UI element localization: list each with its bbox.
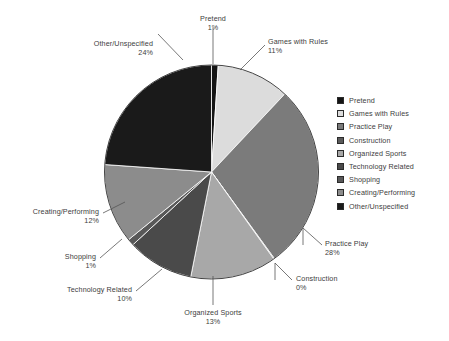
pie-chart: Pretend 1% Games with Rules 11% Other/Un…: [0, 0, 449, 341]
callout-technology-related-label: Technology Related: [48, 285, 132, 294]
callout-construction-label: Construction: [296, 274, 338, 283]
callout-practice-play-value: 28%: [325, 248, 368, 257]
leader-line-construction: [275, 263, 292, 280]
legend-swatch-icon: [337, 137, 344, 144]
callout-technology-related-value: 10%: [48, 294, 132, 303]
callout-other-unspecified-label: Other/Unspecified: [48, 39, 153, 48]
callout-pretend: Pretend 1%: [189, 14, 237, 32]
callout-games-with-rules-value: 11%: [268, 46, 328, 55]
leader-line-technology-related: [136, 269, 162, 291]
callout-organized-sports: Organized Sports 13%: [176, 308, 250, 326]
legend-item-label: Shopping: [349, 175, 380, 184]
legend-swatch-icon: [337, 97, 344, 104]
legend-item-label: Creating/Performing: [349, 188, 415, 197]
callout-construction: Construction 0%: [296, 274, 338, 292]
legend-swatch-icon: [337, 123, 344, 130]
callout-creating-performing-value: 12%: [10, 216, 99, 225]
chart-legend: PretendGames with RulesPractice PlayCons…: [337, 94, 449, 213]
callout-practice-play-label: Practice Play: [325, 239, 368, 248]
legend-swatch-icon: [337, 176, 344, 183]
legend-item-other-unspecified[interactable]: Other/Unspecified: [337, 200, 449, 213]
leader-line-practice-play: [303, 228, 322, 245]
legend-swatch-icon: [337, 189, 344, 196]
legend-item-games-with-rules[interactable]: Games with Rules: [337, 107, 449, 120]
leader-line-shopping: [100, 239, 122, 258]
legend-item-technology-related[interactable]: Technology Related: [337, 160, 449, 173]
pie-slice-other-unspecified[interactable]: [105, 65, 212, 172]
leader-line-other-unspecified: [158, 34, 183, 60]
callout-shopping-value: 1%: [48, 261, 96, 270]
legend-swatch-icon: [337, 203, 344, 210]
callout-construction-value: 0%: [296, 283, 338, 292]
legend-swatch-icon: [337, 150, 344, 157]
callout-organized-sports-value: 13%: [176, 317, 250, 326]
legend-item-construction[interactable]: Construction: [337, 134, 449, 147]
callout-creating-performing-label: Creating/Performing: [10, 207, 99, 216]
legend-item-label: Other/Unspecified: [349, 202, 408, 211]
callout-other-unspecified-value: 24%: [48, 48, 153, 57]
legend-item-practice-play[interactable]: Practice Play: [337, 120, 449, 133]
pie-slice-group: [104, 65, 318, 279]
legend-item-label: Games with Rules: [349, 109, 409, 118]
callout-games-with-rules-label: Games with Rules: [268, 37, 328, 46]
callout-organized-sports-label: Organized Sports: [176, 308, 250, 317]
legend-swatch-icon: [337, 110, 344, 117]
legend-item-shopping[interactable]: Shopping: [337, 173, 449, 186]
callout-technology-related: Technology Related 10%: [48, 285, 132, 303]
callout-practice-play: Practice Play 28%: [325, 239, 368, 257]
callout-shopping-label: Shopping: [48, 252, 96, 261]
legend-item-label: Pretend: [349, 96, 375, 105]
legend-item-pretend[interactable]: Pretend: [337, 94, 449, 107]
callout-creating-performing: Creating/Performing 12%: [10, 207, 99, 225]
callout-pretend-value: 1%: [189, 23, 237, 32]
legend-item-label: Technology Related: [349, 162, 414, 171]
legend-item-label: Practice Play: [349, 122, 392, 131]
callout-shopping: Shopping 1%: [48, 252, 96, 270]
legend-item-label: Construction: [349, 136, 391, 145]
callout-other-unspecified: Other/Unspecified 24%: [48, 39, 153, 57]
legend-item-label: Organized Sports: [349, 149, 407, 158]
callout-pretend-label: Pretend: [189, 14, 237, 23]
leader-line-games-with-rules: [240, 45, 265, 70]
callout-games-with-rules: Games with Rules 11%: [268, 37, 328, 55]
legend-item-organized-sports[interactable]: Organized Sports: [337, 147, 449, 160]
legend-swatch-icon: [337, 163, 344, 170]
legend-item-creating-performing[interactable]: Creating/Performing: [337, 186, 449, 199]
